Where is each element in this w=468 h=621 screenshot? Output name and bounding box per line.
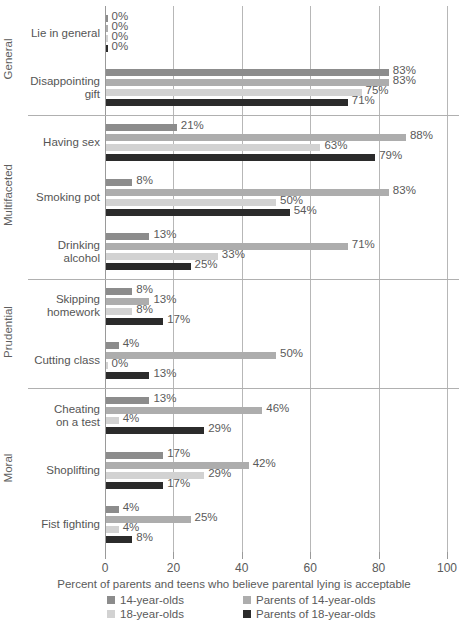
bar-value-label: 13%: [153, 395, 176, 402]
category-label: Cutting class: [18, 354, 100, 367]
bar: [105, 318, 163, 325]
bar: [105, 372, 149, 379]
bar: [105, 134, 406, 141]
legend-row-2: 18-year-olds Parents of 18-year-olds: [107, 608, 361, 620]
bar: [105, 516, 191, 523]
bar-value-label: 8%: [136, 306, 153, 313]
bar-value-label: 4%: [123, 504, 140, 511]
bar: [105, 308, 132, 315]
legend-row-1: 14-year-olds Parents of 14-year-olds: [107, 594, 361, 606]
bar: [105, 89, 362, 96]
category-label: Skipping homework: [18, 293, 100, 319]
bar-value-label: 13%: [153, 231, 176, 238]
section-label-prudential: Prudential: [0, 326, 68, 338]
section-label-text: Prudential: [2, 306, 14, 358]
bar-value-label: 50%: [280, 197, 303, 204]
legend-label: Parents of 14-year-olds: [256, 594, 376, 606]
legend-item-parents-of-14-year-olds[interactable]: Parents of 14-year-olds: [243, 594, 361, 606]
bar-value-label: 29%: [208, 425, 231, 432]
x-tick: [105, 552, 106, 559]
bar: [105, 124, 177, 131]
category-label: Fist fighting: [18, 518, 100, 531]
section-label-general: General: [0, 53, 68, 65]
bar: [105, 154, 375, 161]
bar-value-label: 75%: [366, 87, 389, 94]
bar-value-label: 33%: [222, 251, 245, 258]
x-tick: [310, 552, 311, 559]
bar: [105, 209, 290, 216]
bar-value-label: 0%: [112, 13, 129, 20]
bar: [105, 452, 163, 459]
bar-value-label: 13%: [153, 296, 176, 303]
bar: [105, 99, 348, 106]
bar-value-label: 29%: [208, 470, 231, 477]
x-tick-label: 80: [372, 561, 385, 575]
bar-value-label: 25%: [195, 261, 218, 268]
x-tick-label: 0: [102, 561, 109, 575]
bar: [105, 506, 119, 513]
bar-value-label: 0%: [112, 33, 129, 40]
bar-value-label: 17%: [167, 450, 190, 457]
section-separator: [28, 115, 459, 116]
section-separator: [28, 388, 459, 389]
bar-value-label: 0%: [112, 43, 129, 50]
bar: [105, 482, 163, 489]
x-tick: [242, 552, 243, 559]
category-label: Cheating on a test: [18, 403, 100, 429]
x-tick-label: 100: [437, 561, 457, 575]
bar-value-label: 71%: [352, 97, 375, 104]
section-label-text: General: [2, 38, 14, 79]
bar-value-label: 63%: [324, 142, 347, 149]
legend-swatch-icon: [107, 596, 115, 604]
legend-swatch-icon: [243, 596, 251, 604]
bar-value-label: 25%: [195, 514, 218, 521]
bar: [105, 536, 132, 543]
bar: [105, 199, 276, 206]
bar: [105, 417, 119, 424]
legend-item-parents-of-18-year-olds[interactable]: Parents of 18-year-olds: [243, 608, 361, 620]
legend-label: 14-year-olds: [120, 594, 184, 606]
bar-value-label: 0%: [112, 23, 129, 30]
chart-legend: 14-year-olds Parents of 14-year-olds 18-…: [0, 594, 468, 620]
bar-value-label: 83%: [393, 77, 416, 84]
legend-label: 18-year-olds: [120, 608, 184, 620]
x-tick-label: 60: [304, 561, 317, 575]
bar-value-label: 50%: [280, 350, 303, 357]
x-tick: [173, 552, 174, 559]
bar-value-label: 4%: [123, 415, 140, 422]
category-label: Disappointing gift: [18, 75, 100, 101]
legend-item-14-year-olds[interactable]: 14-year-olds: [107, 594, 225, 606]
bar-value-label: 54%: [294, 207, 317, 214]
bar-chart: 0%0%0%0%83%83%75%71%21%88%63%79%8%83%50%…: [0, 0, 468, 621]
bar-value-label: 4%: [123, 524, 140, 531]
x-axis-title: Percent of parents and teens who believe…: [0, 578, 468, 590]
x-tick-label: 40: [235, 561, 248, 575]
bar: [105, 79, 389, 86]
legend-swatch-icon: [243, 610, 251, 618]
legend-item-18-year-olds[interactable]: 18-year-olds: [107, 608, 225, 620]
category-label: Lie in general: [18, 27, 100, 40]
section-separator: [28, 279, 459, 280]
bar: [105, 189, 389, 196]
category-label: Having sex: [18, 136, 100, 149]
bar-value-label: 71%: [352, 241, 375, 248]
x-tick: [379, 552, 380, 559]
bar: [105, 397, 149, 404]
bar-value-label: 46%: [266, 405, 289, 412]
bar: [105, 352, 276, 359]
bar-value-label: 83%: [393, 187, 416, 194]
bar-value-label: 0%: [112, 360, 129, 367]
bar-value-label: 79%: [379, 152, 402, 159]
bar: [105, 526, 119, 533]
bar-value-label: 21%: [181, 122, 204, 129]
bar-value-label: 88%: [410, 132, 433, 139]
bar: [105, 288, 132, 295]
legend-label: Parents of 18-year-olds: [256, 608, 376, 620]
bar-value-label: 8%: [136, 286, 153, 293]
section-label-text: Multifaceted: [2, 164, 14, 226]
bar: [105, 233, 149, 240]
bar: [105, 69, 389, 76]
bar: [105, 263, 191, 270]
bar-value-label: 17%: [167, 480, 190, 487]
bar: [105, 427, 204, 434]
